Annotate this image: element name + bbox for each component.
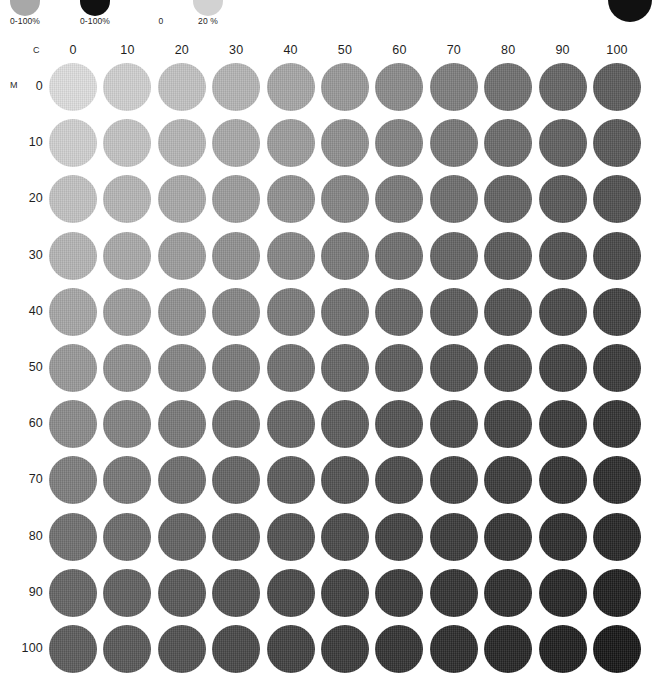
color-patch-c70-m70 <box>430 456 478 504</box>
color-patch-c30-m80 <box>212 513 260 561</box>
color-patch-c60-m0 <box>375 63 423 111</box>
color-patch-c10-m50 <box>103 344 151 392</box>
row-header-m-60: 60 <box>0 416 43 430</box>
cmyk-chart-grid: C M 010203040506070809010001020304050607… <box>0 40 649 673</box>
color-patch-c90-m100 <box>539 625 587 673</box>
column-header-c-10: 10 <box>97 43 157 57</box>
color-patch-c40-m90 <box>267 569 315 617</box>
color-patch-c10-m10 <box>103 119 151 167</box>
column-header-c-80: 80 <box>478 43 538 57</box>
column-header-c-30: 30 <box>206 43 266 57</box>
column-header-c-0: 0 <box>43 43 103 57</box>
color-patch-c80-m100 <box>484 625 532 673</box>
color-patch-c50-m20 <box>321 175 369 223</box>
color-patch-c60-m10 <box>375 119 423 167</box>
color-patch-c0-m90 <box>49 569 97 617</box>
color-patch-c70-m0 <box>430 63 478 111</box>
color-patch-c40-m70 <box>267 456 315 504</box>
color-patch-c40-m40 <box>267 288 315 336</box>
color-patch-c80-m60 <box>484 400 532 448</box>
color-patch-c100-m40 <box>593 288 641 336</box>
color-patch-c50-m40 <box>321 288 369 336</box>
color-patch-c40-m20 <box>267 175 315 223</box>
row-header-m-90: 90 <box>0 585 43 599</box>
color-patch-c100-m90 <box>593 569 641 617</box>
color-patch-c90-m80 <box>539 513 587 561</box>
color-patch-c20-m30 <box>158 232 206 280</box>
color-patch-c100-m0 <box>593 63 641 111</box>
color-patch-c0-m60 <box>49 400 97 448</box>
color-patch-c60-m40 <box>375 288 423 336</box>
color-patch-c0-m80 <box>49 513 97 561</box>
column-header-c-20: 20 <box>152 43 212 57</box>
color-patch-c10-m100 <box>103 625 151 673</box>
color-patch-c80-m20 <box>484 175 532 223</box>
gray-ramp-swatch <box>10 0 40 16</box>
color-patch-c90-m90 <box>539 569 587 617</box>
color-patch-c20-m60 <box>158 400 206 448</box>
column-header-c-100: 100 <box>587 43 647 57</box>
color-patch-c10-m90 <box>103 569 151 617</box>
color-patch-c90-m20 <box>539 175 587 223</box>
color-patch-c60-m90 <box>375 569 423 617</box>
color-patch-c20-m80 <box>158 513 206 561</box>
color-patch-c60-m100 <box>375 625 423 673</box>
color-patch-c80-m40 <box>484 288 532 336</box>
color-patch-c0-m30 <box>49 232 97 280</box>
color-patch-c20-m70 <box>158 456 206 504</box>
color-patch-c0-m10 <box>49 119 97 167</box>
color-patch-c30-m100 <box>212 625 260 673</box>
color-patch-c100-m50 <box>593 344 641 392</box>
color-patch-c70-m20 <box>430 175 478 223</box>
color-patch-c40-m80 <box>267 513 315 561</box>
color-patch-c10-m0 <box>103 63 151 111</box>
row-header-m-100: 100 <box>0 641 43 655</box>
color-patch-c80-m50 <box>484 344 532 392</box>
color-patch-c0-m0 <box>49 63 97 111</box>
color-patch-c100-m70 <box>593 456 641 504</box>
legend-item: 0 <box>136 0 186 26</box>
color-patch-c100-m20 <box>593 175 641 223</box>
color-patch-c70-m100 <box>430 625 478 673</box>
color-patch-c90-m30 <box>539 232 587 280</box>
color-patch-c60-m80 <box>375 513 423 561</box>
color-patch-c30-m50 <box>212 344 260 392</box>
color-patch-c10-m70 <box>103 456 151 504</box>
color-patch-c10-m60 <box>103 400 151 448</box>
color-patch-c10-m40 <box>103 288 151 336</box>
color-patch-c70-m80 <box>430 513 478 561</box>
color-patch-c30-m20 <box>212 175 260 223</box>
color-patch-c70-m60 <box>430 400 478 448</box>
color-patch-c30-m30 <box>212 232 260 280</box>
color-patch-c80-m10 <box>484 119 532 167</box>
color-patch-c50-m70 <box>321 456 369 504</box>
color-patch-c40-m0 <box>267 63 315 111</box>
color-patch-c20-m10 <box>158 119 206 167</box>
color-patch-c80-m70 <box>484 456 532 504</box>
color-patch-c20-m90 <box>158 569 206 617</box>
row-header-m-70: 70 <box>0 472 43 486</box>
color-patch-c0-m40 <box>49 288 97 336</box>
legend-item: 0-100% <box>0 0 50 26</box>
corner-black-dot <box>608 0 652 22</box>
column-header-c-60: 60 <box>369 43 429 57</box>
color-patch-c30-m70 <box>212 456 260 504</box>
color-patch-c60-m50 <box>375 344 423 392</box>
color-patch-c30-m0 <box>212 63 260 111</box>
color-patch-c90-m50 <box>539 344 587 392</box>
color-patch-c40-m100 <box>267 625 315 673</box>
legend-strip: 0-100%0-100%020 % <box>0 0 649 40</box>
color-patch-c0-m50 <box>49 344 97 392</box>
black-ramp-swatch <box>80 0 110 16</box>
color-patch-c70-m30 <box>430 232 478 280</box>
color-patch-c20-m20 <box>158 175 206 223</box>
color-patch-c90-m10 <box>539 119 587 167</box>
color-patch-c90-m40 <box>539 288 587 336</box>
color-patch-c30-m90 <box>212 569 260 617</box>
color-patch-c100-m30 <box>593 232 641 280</box>
color-patch-c0-m100 <box>49 625 97 673</box>
row-header-m-40: 40 <box>0 304 43 318</box>
row-header-m-80: 80 <box>0 529 43 543</box>
color-patch-c50-m80 <box>321 513 369 561</box>
color-patch-c100-m100 <box>593 625 641 673</box>
